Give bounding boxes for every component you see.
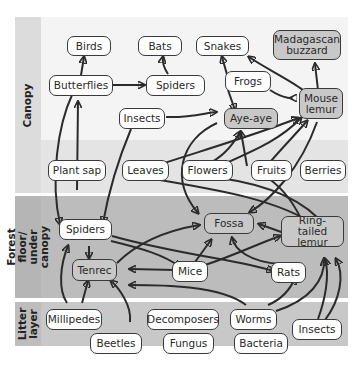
node-birds: Birds — [67, 36, 111, 56]
node-beetles: Beetles — [90, 333, 142, 354]
node-bacteria: Bacteria — [234, 333, 288, 354]
node-leaves: Leaves — [122, 160, 169, 181]
node-tenrec: Tenrec — [72, 259, 117, 281]
node-plant-sap: Plant sap — [48, 160, 106, 181]
node-aye-aye: Aye-aye — [224, 108, 278, 129]
node-fruits: Fruits — [251, 160, 292, 181]
node-butterflies: Butterflies — [49, 75, 113, 96]
node-insects-canopy: Insects — [119, 108, 165, 129]
node-frogs: Frogs — [225, 71, 271, 92]
node-fossa: Fossa — [204, 213, 254, 234]
node-berries: Berries — [300, 160, 346, 181]
node-worms: Worms — [230, 309, 277, 330]
node-madagascan-buzzard: Madagascan buzzard — [273, 30, 341, 60]
node-millipedes: Millipedes — [46, 309, 102, 330]
node-decomposers: Decomposers — [147, 309, 219, 330]
node-fungus: Fungus — [163, 333, 214, 354]
node-insects-litter: Insects — [292, 319, 342, 340]
node-rats: Rats — [271, 262, 306, 283]
node-ring-tailed-lemur: Ring-tailed lemur — [281, 216, 344, 247]
node-mouse-lemur: Mouse lemur — [299, 88, 343, 119]
layer-label-forest-floor: Forest floor/ under canopy — [15, 196, 41, 298]
node-spiders-floor: Spiders — [59, 219, 112, 240]
layer-label-canopy: Canopy — [15, 17, 41, 193]
node-bats: Bats — [138, 36, 182, 56]
node-flowers: Flowers — [182, 160, 233, 181]
node-mice: Mice — [172, 261, 208, 282]
layer-label-litter: Litter layer — [15, 302, 41, 346]
node-snakes: Snakes — [196, 36, 249, 56]
node-spiders-canopy: Spiders — [146, 75, 205, 96]
